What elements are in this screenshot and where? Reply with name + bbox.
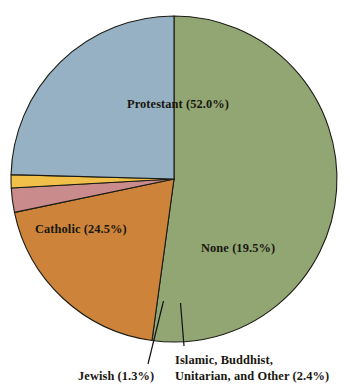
pie-label-other-line1: Islamic, Buddhist, [175,353,329,369]
pie-label-other: Islamic, Buddhist, Unitarian, and Other … [175,353,329,384]
pie-label-other-line2: Unitarian, and Other (2.4%) [175,369,329,385]
pie-chart-canvas [0,0,350,392]
pie-label-none: None (19.5%) [201,241,275,256]
slice-protestant[interactable] [152,16,337,342]
pie-slices [11,16,337,342]
pie-label-catholic: Catholic (24.5%) [35,222,127,237]
pie-label-protestant: Protestant (52.0%) [127,97,229,112]
pie-chart: Protestant (52.0%) Catholic (24.5%) None… [0,0,350,392]
pie-label-jewish: Jewish (1.3%) [78,369,154,385]
